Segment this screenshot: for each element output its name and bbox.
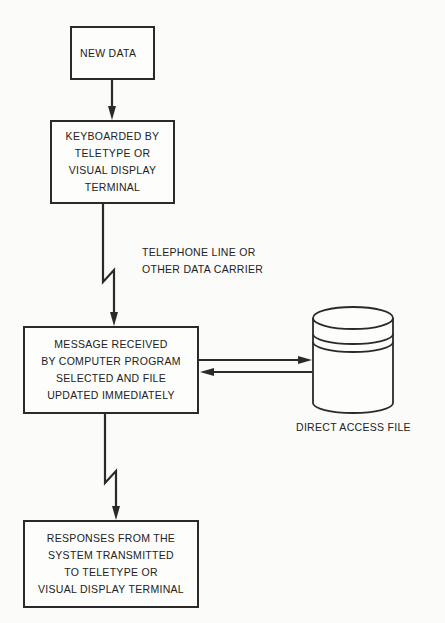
node-responses: RESPONSES FROM THE SYSTEM TRANSMITTED TO… (23, 520, 199, 608)
arrow-file-to-message (200, 368, 312, 376)
arrow-new-data-to-keyboarded (108, 80, 116, 120)
node-new-data-line-1: NEW DATA (80, 45, 136, 62)
node-responses-line-2: SYSTEM TRANSMITTED (48, 547, 174, 564)
lightning-arrow-message-to-responses (105, 414, 120, 520)
node-message-line-3: SELECTED AND FILE (56, 370, 166, 387)
node-keyboarded-line-4: TERMINAL (85, 179, 141, 196)
node-responses-line-4: VISUAL DISPLAY TERMINAL (38, 581, 184, 598)
node-new-data: NEW DATA (70, 26, 155, 80)
node-responses-line-3: TO TELETYPE OR (64, 564, 158, 581)
node-message-received: MESSAGE RECEIVED BY COMPUTER PROGRAM SEL… (23, 326, 199, 414)
direct-access-file-cylinder-icon (313, 307, 393, 413)
node-responses-line-1: RESPONSES FROM THE (47, 530, 175, 547)
node-keyboarded: KEYBOARDED BY TELETYPE OR VISUAL DISPLAY… (50, 120, 175, 204)
node-message-line-2: BY COMPUTER PROGRAM (41, 353, 181, 370)
edge-label-carrier-line-1: TELEPHONE LINE OR (142, 244, 263, 261)
edge-label-carrier-line-2: OTHER DATA CARRIER (142, 261, 263, 278)
node-message-line-4: UPDATED IMMEDIATELY (47, 387, 175, 404)
node-keyboarded-line-3: VISUAL DISPLAY (69, 162, 157, 179)
node-message-line-1: MESSAGE RECEIVED (54, 336, 167, 353)
lightning-arrow-keyboarded-to-message (103, 204, 118, 326)
node-keyboarded-line-2: TELETYPE OR (75, 145, 151, 162)
arrow-message-to-file (199, 356, 312, 364)
edge-label-carrier: TELEPHONE LINE OR OTHER DATA CARRIER (142, 244, 263, 278)
node-keyboarded-line-1: KEYBOARDED BY (66, 128, 160, 145)
direct-access-file-label: DIRECT ACCESS FILE (296, 419, 411, 436)
